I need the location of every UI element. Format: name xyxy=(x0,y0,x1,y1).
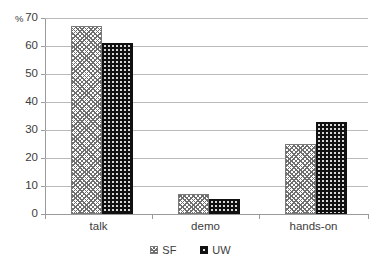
y-axis-tick-labels: 70 60 50 40 30 20 10 0 xyxy=(0,0,38,274)
y-axis-tick-label: 40 xyxy=(25,96,38,108)
bar-hands-on-sf xyxy=(285,144,316,214)
plot-area xyxy=(45,18,368,214)
legend-label-uw: UW xyxy=(212,244,230,256)
y-axis-tick-label: 60 xyxy=(25,40,38,52)
bar-talk-uw xyxy=(102,43,133,214)
legend-item-sf: SF xyxy=(150,244,176,256)
x-axis-category-label-demo: demo xyxy=(152,220,259,233)
x-axis-line xyxy=(45,214,369,215)
bar-demo-sf xyxy=(178,194,209,214)
x-axis-tick xyxy=(368,214,369,219)
y-axis-tick-label: 0 xyxy=(32,208,38,220)
bar-hands-on-uw xyxy=(316,122,347,214)
x-axis-tick xyxy=(152,214,153,219)
x-axis-tick xyxy=(45,214,46,219)
legend-swatch-uw-icon xyxy=(200,246,208,254)
legend-item-uw: UW xyxy=(200,244,230,256)
y-axis-tick-label: 30 xyxy=(25,124,38,136)
chart-legend: SF UW xyxy=(0,244,381,256)
y-axis-tick-label: 10 xyxy=(25,180,38,192)
legend-label-sf: SF xyxy=(162,244,176,256)
bar-chart: % 70 60 50 40 30 20 10 0 xyxy=(0,0,381,274)
y-axis-tick-label: 70 xyxy=(25,12,38,24)
bar-demo-uw xyxy=(209,199,240,214)
legend-swatch-sf-icon xyxy=(150,246,158,254)
gridline xyxy=(45,18,368,19)
y-axis-tick-label: 20 xyxy=(25,152,38,164)
x-axis-category-label-hands-on: hands-on xyxy=(259,220,368,233)
y-axis-tick-label: 50 xyxy=(25,68,38,80)
x-axis-category-label-talk: talk xyxy=(45,220,152,233)
bar-talk-sf xyxy=(71,26,102,214)
x-axis-tick xyxy=(259,214,260,219)
